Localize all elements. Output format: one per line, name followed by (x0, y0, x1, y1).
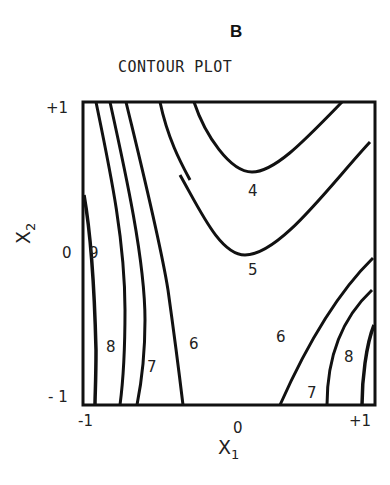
y-tick-max: +1 (46, 99, 68, 117)
contour-label-7-left: 7 (147, 358, 157, 376)
contour-level-9 (84, 195, 96, 405)
contour-level-5-left (160, 102, 190, 180)
contour-level-8-right (362, 325, 374, 405)
contour-level-4 (194, 102, 342, 172)
contour-label-6-right: 6 (276, 328, 286, 346)
contour-plot: 4 5 6 6 7 7 8 8 9 (0, 0, 390, 485)
contour-label-4: 4 (248, 182, 258, 200)
contour-label-8-left: 8 (106, 338, 116, 356)
x-tick-max: +1 (349, 412, 371, 430)
contour-level-6-right (280, 258, 373, 405)
y-tick-min: - 1 (48, 388, 68, 406)
contour-label-8-right: 8 (344, 348, 354, 366)
contour-label-5: 5 (248, 261, 258, 279)
y-axis-label: X2 (12, 223, 38, 244)
contour-level-7-left (110, 102, 145, 405)
x-axis-label: X1 (218, 436, 239, 462)
contour-label-6-left: 6 (189, 335, 199, 353)
contour-label-9: 9 (89, 244, 99, 262)
contour-label-7-right: 7 (307, 384, 317, 402)
contour-level-5 (180, 142, 370, 255)
x-tick-zero: 0 (233, 419, 243, 437)
y-tick-zero: 0 (62, 244, 72, 262)
x-tick-min: -1 (78, 412, 93, 430)
